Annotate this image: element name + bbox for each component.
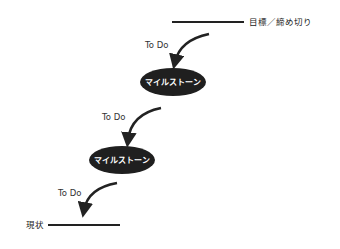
current-label: 現状 <box>26 220 44 230</box>
todo-arrow-3 <box>84 183 117 210</box>
todo-label-1: To Do <box>144 40 168 50</box>
goal-label: 目標／締め切り <box>249 17 312 27</box>
roadmap-diagram: 目標／締め切り To Do マイルストーン To Do マイルストーン To D… <box>0 0 340 249</box>
milestone-1-label: マイルストーン <box>145 78 201 87</box>
milestone-2-label: マイルストーン <box>94 156 150 165</box>
todo-label-2: To Do <box>101 112 125 122</box>
todo-arrow-1 <box>175 34 209 62</box>
todo-arrow-2 <box>128 108 161 140</box>
todo-label-3: To Do <box>57 188 81 198</box>
